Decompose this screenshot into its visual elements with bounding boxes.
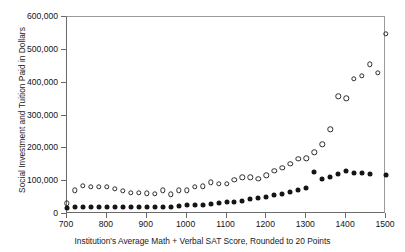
data-point-filled [368, 171, 373, 176]
y-axis-tick-label: 300,000 [0, 110, 58, 120]
data-point-open [112, 186, 117, 191]
data-point-filled [312, 169, 317, 174]
data-point-filled [272, 192, 277, 197]
data-point-filled [88, 204, 93, 209]
data-point-open [296, 156, 301, 161]
data-point-open [200, 184, 205, 189]
data-point-open [280, 165, 285, 170]
data-point-open [272, 168, 277, 173]
x-axis-tick-label: 700 [59, 219, 73, 229]
data-point-filled [65, 206, 70, 211]
x-axis-tick [226, 213, 227, 218]
x-axis-tick [345, 213, 346, 218]
data-point-open [176, 188, 181, 193]
data-point-filled [128, 204, 133, 209]
data-point-open [120, 188, 125, 193]
data-point-open [248, 175, 253, 180]
data-point-filled [336, 171, 341, 176]
data-point-open [192, 184, 197, 189]
data-point-filled [120, 204, 125, 209]
data-point-open [312, 150, 317, 155]
data-point-open [335, 94, 340, 99]
data-point-open [288, 161, 293, 166]
data-point-filled [288, 189, 293, 194]
data-point-filled [168, 204, 173, 209]
data-point-filled [352, 171, 357, 176]
data-point-filled [344, 169, 349, 174]
data-point-filled [96, 204, 101, 209]
data-point-open [351, 76, 356, 81]
data-point-filled [112, 204, 117, 209]
x-axis-tick [265, 213, 266, 218]
data-point-filled [200, 202, 205, 207]
data-point-open [240, 175, 245, 180]
data-points-layer [67, 17, 384, 212]
data-point-filled [80, 204, 85, 209]
data-point-filled [320, 176, 325, 181]
y-axis-tick-label: 600,000 [0, 11, 58, 21]
x-axis-tick-label: 1100 [216, 219, 234, 229]
data-point-filled [232, 199, 237, 204]
data-point-open [383, 31, 388, 36]
y-axis-tick [61, 49, 66, 50]
data-point-filled [144, 205, 149, 210]
x-axis-tick [385, 213, 386, 218]
x-axis-tick-label: 800 [99, 219, 113, 229]
data-point-open [343, 96, 348, 101]
data-point-open [160, 188, 165, 193]
data-point-open [152, 191, 157, 196]
x-axis-tick-label: 1400 [336, 219, 355, 229]
data-point-filled [248, 197, 253, 202]
y-axis-tick [61, 180, 66, 181]
data-point-filled [256, 196, 261, 201]
data-point-filled [216, 200, 221, 205]
data-point-open [96, 184, 101, 189]
data-point-filled [208, 201, 213, 206]
x-axis-tick [186, 213, 187, 218]
x-axis-title: Institution's Average Math + Verbal SAT … [0, 236, 405, 246]
data-point-open [208, 180, 213, 185]
data-point-open [144, 191, 149, 196]
plot-area [66, 16, 385, 213]
data-point-open [136, 190, 141, 195]
data-point-filled [384, 172, 389, 177]
x-axis-tick [106, 213, 107, 218]
data-point-open [304, 155, 309, 160]
scatter-chart: Social Investment and Tuition Paid in Do… [0, 0, 405, 252]
x-axis-ticks: 700800900100011001200130014001500 [66, 213, 385, 237]
data-point-filled [176, 204, 181, 209]
data-point-open [184, 188, 189, 193]
y-axis-tick [61, 115, 66, 116]
data-point-open [367, 62, 372, 67]
data-point-filled [136, 205, 141, 210]
data-point-filled [240, 198, 245, 203]
data-point-open [375, 70, 380, 75]
data-point-open [168, 192, 173, 197]
data-point-open [216, 181, 221, 186]
x-axis-tick [305, 213, 306, 218]
x-axis-tick-label: 1200 [256, 219, 275, 229]
y-axis-tick-label: 400,000 [0, 77, 58, 87]
data-point-open [104, 184, 109, 189]
data-point-open [256, 176, 261, 181]
data-point-filled [72, 204, 77, 209]
y-axis-tick-label: 0 [0, 208, 58, 218]
y-axis-tick-label: 200,000 [0, 142, 58, 152]
data-point-open [88, 184, 93, 189]
data-point-open [359, 73, 364, 78]
data-point-filled [104, 204, 109, 209]
data-point-filled [296, 187, 301, 192]
x-axis-tick [66, 213, 67, 218]
y-axis-tick-label: 100,000 [0, 175, 58, 185]
y-axis-tick [61, 82, 66, 83]
data-point-filled [360, 171, 365, 176]
data-point-open [72, 188, 77, 193]
data-point-filled [280, 191, 285, 196]
data-point-open [80, 183, 85, 188]
x-axis-tick-label: 1000 [176, 219, 195, 229]
x-axis-tick [146, 213, 147, 218]
data-point-filled [192, 203, 197, 208]
data-point-filled [160, 204, 165, 209]
x-axis-tick-label: 900 [139, 219, 153, 229]
y-axis-tick [61, 147, 66, 148]
